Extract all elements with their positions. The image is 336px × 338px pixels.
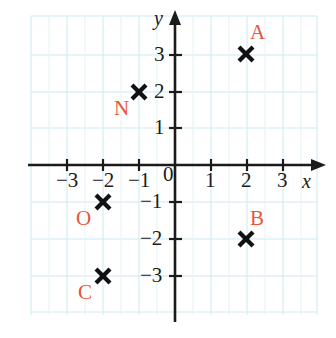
x-tick-label-neg1: −1 — [128, 170, 150, 191]
x-tick-label-2: 2 — [241, 170, 252, 191]
x-tick-label-neg2: −2 — [92, 170, 114, 191]
y-axis-arrowhead — [169, 10, 181, 25]
x-tick-label-3: 3 — [277, 170, 288, 191]
point-marker-a[interactable] — [239, 47, 253, 61]
x-axis-arrowhead — [311, 159, 326, 171]
x-tick-label-neg3: −3 — [56, 170, 78, 191]
point-label-n: N — [114, 98, 129, 119]
x-tick-label-1: 1 — [205, 170, 216, 191]
point-label-o: O — [76, 208, 91, 229]
y-tick-label-3: 3 — [154, 44, 165, 65]
y-tick-label-neg2: −2 — [140, 228, 162, 249]
y-tick-label-1: 1 — [154, 117, 165, 138]
origin-label: 0 — [163, 164, 174, 185]
y-tick-label-2: 2 — [154, 81, 165, 102]
point-label-a: A — [250, 22, 265, 43]
coordinate-plane-figure: x y −3 −2 −1 1 2 3 0 3 2 1 −1 −2 −3 A N … — [0, 0, 336, 338]
y-tick-label-neg3: −3 — [140, 265, 162, 286]
point-label-c: C — [78, 282, 92, 303]
x-axis-label: x — [302, 171, 311, 191]
y-axis-label: y — [154, 8, 163, 28]
y-tick-label-neg1: −1 — [140, 191, 162, 212]
point-label-b: B — [250, 208, 264, 229]
